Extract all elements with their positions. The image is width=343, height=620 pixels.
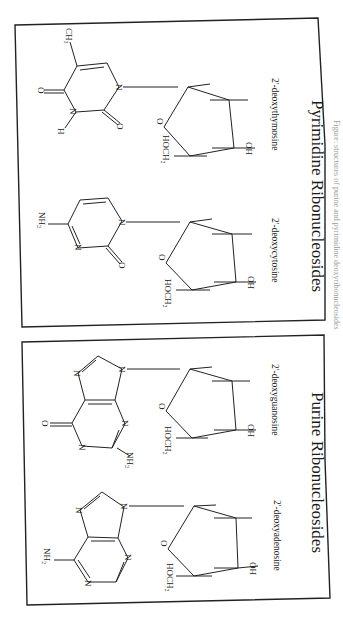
oxygen-label: O [40,420,50,427]
nitrogen-label: N [117,366,127,373]
oxygen-label: O [117,262,127,269]
compound-deoxycytosine: NH₂ N N O O HOCH₂ OH 2'-deoxycytosine [37,198,280,308]
hydroxyl-label: OH [246,424,256,437]
figure-page: Pyrimidine Ribonucleosides [0,0,343,620]
ring-oxygen-label: O [157,403,167,410]
purine-panel: Purine Ribonucleosides O N N N [22,335,330,605]
pyrimidine-panel-title: Pyrimidine Ribonucleosides [308,100,327,292]
compound-deoxyguanosine: O N N N N NH₂ O HOCH₂ OH 2'-deoxyguanosi… [40,356,280,468]
nitrogen-label: N [120,420,130,427]
nitrogen-label: N [123,554,133,561]
hydroxyl-label: OH [246,276,256,289]
nitrogen-label: N [117,219,127,226]
hoch2-label: HOCH₂ [165,563,175,592]
compound-name: 2'-deoxyadenosine [272,500,282,571]
compound-name: 2'-deoxyguanosine [270,364,280,435]
purine-panel-title: Purine Ribonucleosides [308,392,327,553]
methyl-label: CH₃ [64,28,74,44]
amine-label: NH₂ [125,452,135,468]
nitrogen-label: N [114,84,124,91]
figure-caption: Figure: structures of purine and pyrimid… [332,120,341,330]
nitrogen-label: N [77,444,87,451]
compound-deoxyadenosine: NH₂ N N N N O HOCH₂ OH 2'-deoxyadenosine [42,492,282,592]
nitrogen-label: N [83,580,93,587]
compound-deoxythymosine: CH₃ O N H O N O HOCH₂ OH 2'-deoxythymosi… [36,28,280,164]
oxygen-label: O [36,87,46,94]
nitrogen-label: N [72,370,82,377]
ring-oxygen-label: O [155,118,165,125]
amine-label: NH₂ [37,212,47,228]
pyrimidine-panel: Pyrimidine Ribonucleosides [15,18,327,327]
purine-panel-border [22,335,330,605]
hoch2-label: HOCH₂ [161,135,171,164]
nucleoside-figure: Pyrimidine Ribonucleosides [0,0,343,620]
hydroxyl-label: OH [244,142,254,155]
nitrogen-label: N [68,108,78,115]
hoch2-label: HOCH₂ [163,426,173,455]
compound-name: 2'-deoxythymosine [270,78,280,150]
nitrogen-label: N [73,244,83,251]
compound-name: 2'-deoxycytosine [270,218,280,283]
hoch2-label: HOCH₂ [163,279,173,308]
hydroxyl-label: OH [248,562,258,575]
nitrogen-label: N [74,507,84,514]
hydrogen-label: H [56,128,66,135]
amine-label: NH₂ [42,548,52,564]
ring-oxygen-label: O [157,254,167,261]
oxygen-label: O [115,123,125,130]
nitrogen-label: N [119,503,129,510]
ring-oxygen-label: O [159,540,169,547]
